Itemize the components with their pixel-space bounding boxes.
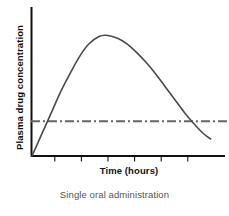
pharmacokinetics-figure: Plasma drug concentration Time (hours) S… [0,0,229,216]
y-axis-title: Plasma drug concentration [14,13,25,163]
figure-caption: Single oral administration [0,189,229,200]
plot-area [0,0,229,216]
drug-concentration-curve [32,35,211,156]
x-axis-title: Time (hours) [32,165,226,176]
x-axis-ticks [55,157,188,162]
